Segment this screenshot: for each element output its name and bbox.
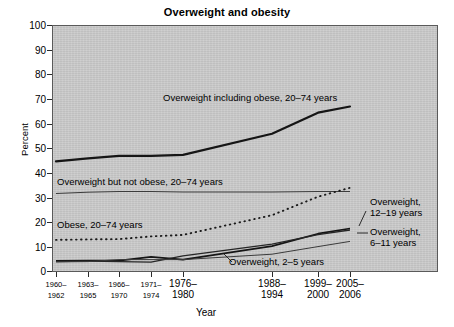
y-tick-label-90: 90 bbox=[14, 46, 46, 56]
x-tick-mark-1963-1965 bbox=[88, 272, 89, 277]
x-axis-title: Year bbox=[52, 307, 360, 318]
x-tick-mark-1966-1970 bbox=[119, 272, 120, 277]
annotation-overweight-12-19: Overweight, 12–19 years bbox=[370, 196, 422, 218]
y-tick-mark-60 bbox=[47, 124, 52, 125]
y-tick-label-10: 10 bbox=[14, 243, 46, 253]
chart-figure: Overweight and obesity Percent Year 100 … bbox=[0, 0, 454, 327]
x-tick-mark-2005-2006 bbox=[350, 272, 351, 277]
x-tick-label-2005-2006: 2005– 2006 bbox=[328, 278, 372, 300]
x-tick-mark-1960-1962 bbox=[56, 272, 57, 277]
y-tick-mark-90 bbox=[47, 50, 52, 51]
y-tick-mark-30 bbox=[47, 198, 52, 199]
page-title: Overweight and obesity bbox=[0, 6, 454, 18]
x-tick-mark-1971-1974 bbox=[151, 272, 152, 277]
y-tick-label-0: 0 bbox=[14, 267, 46, 277]
annotation-overweight-but-not-obese: Overweight but not obese, 20–74 years bbox=[57, 176, 223, 187]
y-tick-mark-10 bbox=[47, 247, 52, 248]
y-tick-mark-0 bbox=[47, 271, 52, 272]
annotation-obese: Obese, 20–74 years bbox=[57, 219, 143, 230]
x-tick-mark-1976-1980 bbox=[183, 272, 184, 277]
x-tick-mark-1999-2000 bbox=[318, 272, 319, 277]
y-tick-label-100: 100 bbox=[14, 21, 46, 31]
y-tick-label-50: 50 bbox=[14, 144, 46, 154]
x-tick-label-1963-1965: 1963– 1965 bbox=[71, 279, 105, 301]
y-axis-title: Percent bbox=[19, 100, 30, 180]
x-tick-label-1976-1980: 1976– 1980 bbox=[161, 278, 205, 300]
x-tick-label-1960-1962: 1960– 1962 bbox=[39, 279, 73, 301]
x-tick-label-1988-1994: 1988– 1994 bbox=[250, 278, 294, 300]
y-tick-label-70: 70 bbox=[14, 95, 46, 105]
annotation-overweight-6-11: Overweight, 6–11 years bbox=[370, 226, 421, 248]
y-tick-label-30: 30 bbox=[14, 194, 46, 204]
x-tick-mark-1988-1994 bbox=[272, 272, 273, 277]
y-tick-mark-80 bbox=[47, 74, 52, 75]
y-tick-mark-50 bbox=[47, 148, 52, 149]
y-tick-label-20: 20 bbox=[14, 218, 46, 228]
y-tick-mark-40 bbox=[47, 173, 52, 174]
annotation-overweight-2-5: Overweight, 2–5 years bbox=[229, 256, 324, 267]
y-tick-label-40: 40 bbox=[14, 169, 46, 179]
x-tick-label-1966-1970: 1966– 1970 bbox=[102, 279, 136, 301]
y-tick-label-80: 80 bbox=[14, 70, 46, 80]
annotation-overweight-including-obese: Overweight including obese, 20–74 years bbox=[163, 92, 337, 103]
y-tick-mark-100 bbox=[47, 25, 52, 26]
y-tick-label-60: 60 bbox=[14, 120, 46, 130]
y-tick-mark-20 bbox=[47, 222, 52, 223]
y-tick-mark-70 bbox=[47, 99, 52, 100]
